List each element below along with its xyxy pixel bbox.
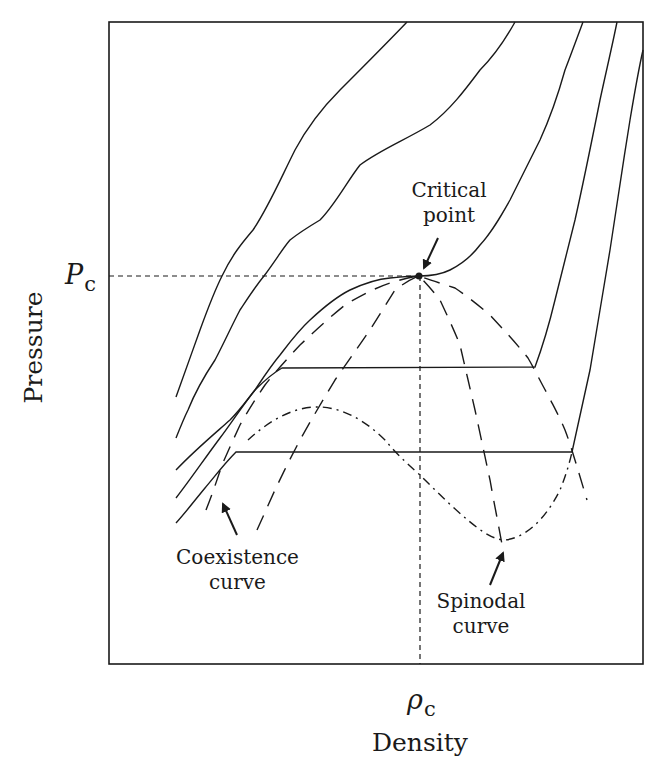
coexistence-label: Coexistence curve — [160, 547, 315, 592]
spinodal-label-line1: Spinodal — [425, 591, 537, 611]
rhoc-symbol: ρ — [407, 684, 423, 715]
critical-point-label: Critical point — [397, 180, 501, 225]
vdw-loop — [248, 407, 572, 540]
pc-subscript: c — [84, 272, 96, 296]
critical-isotherm — [176, 22, 583, 470]
phase-diagram: Critical point Coexistence curve Spinoda… — [0, 0, 663, 773]
diagram-canvas — [0, 0, 663, 773]
coexistence-arrow — [223, 504, 237, 535]
x-axis-label: Density — [340, 730, 500, 755]
critical-point-label-line1: Critical — [397, 180, 501, 200]
coexistence-curve — [206, 276, 587, 510]
pc-symbol: P — [65, 259, 83, 290]
spinodal-label-line2: curve — [425, 616, 537, 636]
rhoc-tick-label: ρc — [407, 686, 436, 713]
y-axis-label: Pressure — [21, 288, 46, 408]
spinodal-curve — [257, 276, 503, 550]
coexistence-label-line2: curve — [160, 572, 315, 592]
spinodal-label: Spinodal curve — [425, 591, 537, 636]
coexistence-label-line1: Coexistence — [160, 547, 315, 567]
pc-tick-label: Pc — [65, 261, 96, 288]
critical-point-marker — [416, 273, 423, 280]
critical-point-label-line2: point — [397, 205, 501, 225]
critical-point-arrow — [424, 238, 438, 268]
rhoc-subscript: c — [424, 697, 436, 721]
spinodal-arrow — [490, 553, 503, 585]
isotherm-4 — [176, 22, 617, 498]
